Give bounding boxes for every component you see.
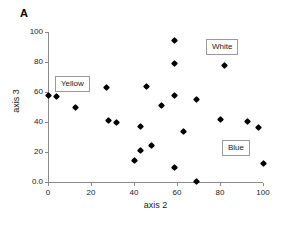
x-tick-mark xyxy=(48,183,49,186)
cluster-label-white: White xyxy=(206,39,238,55)
data-point xyxy=(130,157,137,164)
data-point xyxy=(216,116,223,123)
x-tick-label: 100 xyxy=(252,188,274,197)
data-point xyxy=(180,128,187,135)
data-point xyxy=(221,61,228,68)
data-point xyxy=(171,91,178,98)
y-tick-label: 40 xyxy=(21,117,43,126)
x-tick-label: 40 xyxy=(123,188,145,197)
figure-panel: A 0.020406080100 020406080100 axis 3 axi… xyxy=(0,0,286,227)
x-tick-mark xyxy=(134,183,135,186)
scatter-plot: 0.020406080100 020406080100 axis 3 axis … xyxy=(0,0,286,227)
data-point xyxy=(53,93,60,100)
data-point xyxy=(193,178,200,185)
y-tick-mark xyxy=(45,122,48,123)
data-point xyxy=(103,84,110,91)
data-point xyxy=(137,123,144,130)
x-tick-label: 20 xyxy=(80,188,102,197)
x-tick-label: 60 xyxy=(166,188,188,197)
data-point xyxy=(158,102,165,109)
x-axis-line xyxy=(48,182,263,183)
y-tick-label: 60 xyxy=(21,87,43,96)
y-tick-label: 100 xyxy=(21,27,43,36)
x-tick-mark xyxy=(263,183,264,186)
data-point xyxy=(244,118,251,125)
data-point xyxy=(259,160,266,167)
y-tick-label: 80 xyxy=(21,57,43,66)
cluster-label-yellow: Yellow xyxy=(55,76,90,92)
cluster-label-blue: Blue xyxy=(222,140,250,156)
y-tick-label: 0.0 xyxy=(21,177,43,186)
y-tick-mark xyxy=(45,32,48,33)
data-point xyxy=(105,117,112,124)
data-point xyxy=(113,118,120,125)
y-axis-line xyxy=(48,32,49,183)
data-point xyxy=(171,164,178,171)
y-tick-label: 20 xyxy=(21,147,43,156)
data-point xyxy=(255,124,262,131)
y-tick-mark xyxy=(45,62,48,63)
x-tick-label: 0 xyxy=(37,188,59,197)
x-tick-mark xyxy=(177,183,178,186)
data-point xyxy=(137,147,144,154)
x-axis-title: axis 2 xyxy=(48,200,263,210)
data-point xyxy=(171,60,178,67)
data-point xyxy=(148,142,155,149)
data-point xyxy=(171,37,178,44)
y-tick-mark xyxy=(45,152,48,153)
x-tick-mark xyxy=(91,183,92,186)
data-point xyxy=(143,82,150,89)
x-tick-label: 80 xyxy=(209,188,231,197)
data-point xyxy=(72,103,79,110)
data-point xyxy=(193,96,200,103)
y-axis-title: axis 3 xyxy=(11,71,21,131)
x-tick-mark xyxy=(220,183,221,186)
